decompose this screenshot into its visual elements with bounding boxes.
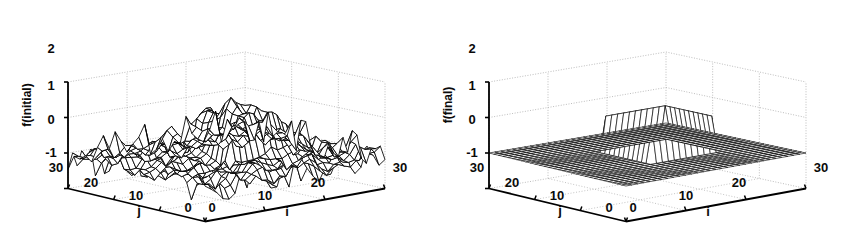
surface-plot-initial: 2 1 0 -1 f(initial) 30 20 10 0 j 0 10 20… bbox=[0, 0, 421, 241]
surface-plot-final: 2 1 0 -1 f(final) 30 20 10 0 j 0 10 20 3… bbox=[421, 0, 842, 241]
mesh-surface bbox=[68, 98, 385, 200]
plot-canvas-initial bbox=[0, 0, 421, 241]
plot-canvas-final bbox=[421, 0, 842, 241]
mesh-surface bbox=[489, 106, 806, 186]
figure-container: 2 1 0 -1 f(initial) 30 20 10 0 j 0 10 20… bbox=[0, 0, 843, 241]
